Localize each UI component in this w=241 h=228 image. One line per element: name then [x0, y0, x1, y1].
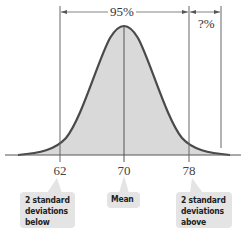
callout-line: deviations: [181, 206, 227, 217]
callout-line: deviations: [25, 206, 70, 217]
bracket-95-label: 95%: [108, 5, 136, 18]
callout-line: 2 standard: [181, 195, 227, 206]
callout-line: below mean: [25, 217, 70, 228]
callout-pointer-mean: [119, 176, 129, 193]
bracket-unknown-label: ?%: [196, 17, 217, 30]
callout-mean: Mean: [107, 192, 140, 208]
callout-line: above mean: [181, 217, 227, 228]
callout-above-mean: 2 standard deviations above mean: [176, 192, 232, 228]
arrowhead-right-icon: [214, 10, 220, 14]
normal-distribution-diagram: 95% ?% 62 70 78 2 standard deviations be…: [0, 0, 241, 228]
arrowhead-left-icon: [61, 10, 67, 14]
tick-label-78: 78: [183, 164, 196, 177]
tick-label-62: 62: [54, 164, 67, 177]
arrowhead-left-icon: [190, 10, 196, 14]
callout-pointer-right: [190, 178, 203, 193]
tick-label-70: 70: [118, 164, 131, 177]
callout-pointer-left: [47, 178, 62, 193]
callout-below-mean: 2 standard deviations below mean: [20, 192, 75, 228]
callout-line: 2 standard: [25, 195, 70, 206]
callout-line: Mean: [111, 194, 136, 205]
arrowhead-right-icon: [182, 10, 188, 14]
